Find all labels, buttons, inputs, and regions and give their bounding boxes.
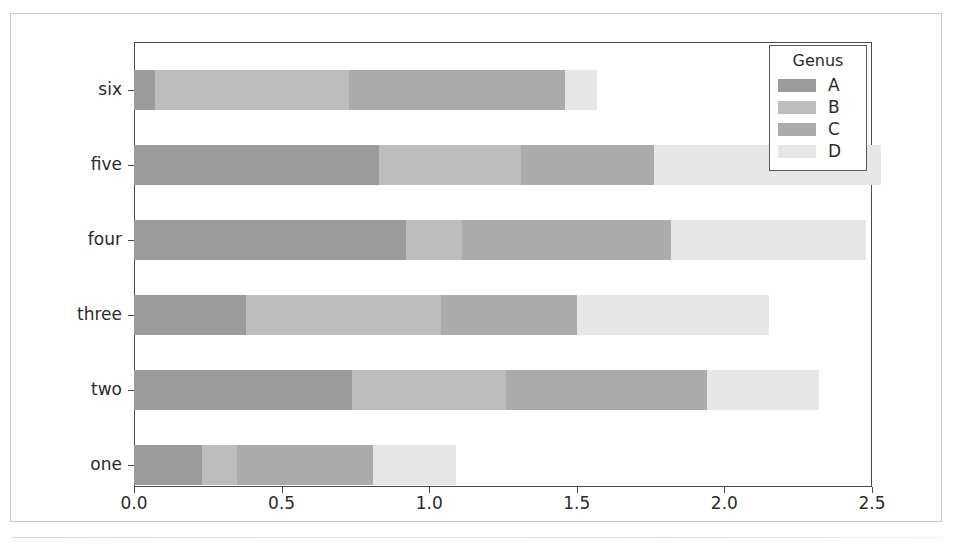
bar-segment-two-D (707, 370, 819, 410)
bar-segment-five-C (521, 145, 654, 185)
bar-one (134, 445, 456, 485)
legend-swatch-A (778, 79, 816, 92)
y-tick-label-five: five (22, 156, 122, 173)
bar-segment-three-A (134, 295, 246, 335)
x-tick-label-0.0: 0.0 (104, 494, 164, 512)
bar-segment-two-A (134, 370, 352, 410)
legend-swatch-B (778, 101, 816, 114)
bar-segment-three-B (246, 295, 441, 335)
bar-segment-three-D (577, 295, 769, 335)
legend-swatch-C (778, 123, 816, 136)
bar-segment-two-C (506, 370, 707, 410)
x-tick-label-1.0: 1.0 (399, 494, 459, 512)
bar-two (134, 370, 819, 410)
bar-segment-four-B (406, 220, 462, 260)
bar-six (134, 70, 597, 110)
bar-segment-six-B (155, 70, 350, 110)
bar-segment-six-C (349, 70, 564, 110)
bar-three (134, 295, 769, 335)
bar-four (134, 220, 866, 260)
y-tick-label-one: one (22, 456, 122, 473)
y-tick-label-two: two (22, 381, 122, 398)
legend-label-A: A (828, 77, 840, 94)
bar-segment-three-C (441, 295, 577, 335)
x-tick-label-2.5: 2.5 (842, 494, 902, 512)
bar-segment-four-D (671, 220, 866, 260)
y-tick-label-four: four (22, 231, 122, 248)
legend-entry-B: B (778, 96, 858, 118)
bar-segment-six-A (134, 70, 155, 110)
legend-title: Genus (778, 52, 858, 70)
x-tick-label-1.5: 1.5 (547, 494, 607, 512)
legend-entry-D: D (778, 140, 858, 162)
y-tick-label-six: six (22, 81, 122, 98)
bar-segment-one-B (202, 445, 237, 485)
bar-segment-four-C (462, 220, 672, 260)
y-tick-label-three: three (22, 306, 122, 323)
bar-segment-four-A (134, 220, 406, 260)
legend-swatch-D (778, 145, 816, 158)
legend-label-D: D (828, 143, 841, 160)
bar-segment-one-A (134, 445, 202, 485)
legend-entries: ABCD (778, 74, 858, 162)
legend-label-C: C (828, 121, 840, 138)
bar-segment-two-B (352, 370, 506, 410)
bar-segment-five-A (134, 145, 379, 185)
legend-label-B: B (828, 99, 840, 116)
chart-figure: sixfivefourthreetwoone 0.00.51.01.52.02.… (0, 0, 953, 555)
legend-entry-A: A (778, 74, 858, 96)
bar-segment-one-D (373, 445, 456, 485)
legend-box: Genus ABCD (769, 45, 867, 171)
legend-entry-C: C (778, 118, 858, 140)
bar-segment-one-C (237, 445, 373, 485)
bar-segment-five-B (379, 145, 521, 185)
x-tick-label-0.5: 0.5 (252, 494, 312, 512)
x-tick-label-2.0: 2.0 (694, 494, 754, 512)
bar-segment-six-D (565, 70, 597, 110)
